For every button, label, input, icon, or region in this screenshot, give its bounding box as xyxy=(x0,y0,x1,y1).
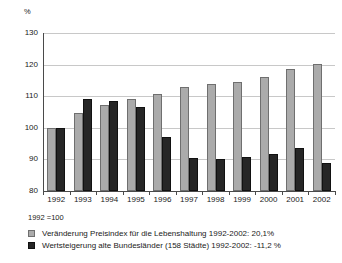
bar-group-1996 xyxy=(149,33,176,191)
bar-1996-series2 xyxy=(162,137,171,191)
x-tick-1995 xyxy=(149,191,150,195)
bar-1999-series1 xyxy=(233,82,242,191)
bar-group-2000 xyxy=(255,33,282,191)
bar-group-1995 xyxy=(123,33,150,191)
y-tick-label-110: 110 xyxy=(14,92,38,100)
bar-group-1994 xyxy=(96,33,123,191)
x-tick-2000 xyxy=(282,191,283,195)
bar-2002-series2 xyxy=(322,163,331,191)
bar-1993-series1 xyxy=(74,113,83,190)
y-tick-label-80: 80 xyxy=(14,187,38,195)
bar-1999-series2 xyxy=(242,157,251,190)
y-axis-unit-label: % xyxy=(24,8,31,16)
bar-1998-series2 xyxy=(216,159,225,191)
bar-chart: % 130 120 110 100 90 80 1992199319941995… xyxy=(0,0,342,263)
bar-group-1997 xyxy=(176,33,203,191)
chart-legend: Veränderung Preisindex für die Lebenshal… xyxy=(28,228,281,252)
y-tick-label-130: 130 xyxy=(14,29,38,37)
x-tick-1996 xyxy=(176,191,177,195)
x-tick-1999 xyxy=(255,191,256,195)
bar-2002-series1 xyxy=(313,64,322,190)
bar-group-2002 xyxy=(308,33,335,191)
legend-label-preisindex: Veränderung Preisindex für die Lebenshal… xyxy=(42,229,274,238)
bar-2000-series2 xyxy=(269,154,278,191)
bar-1994-series1 xyxy=(100,105,109,191)
x-tick-1993 xyxy=(96,191,97,195)
legend-swatch-dark-icon xyxy=(28,242,35,249)
x-axis-label-2002: 2002 xyxy=(305,195,339,204)
bar-1996-series1 xyxy=(153,94,162,190)
bar-group-1992 xyxy=(43,33,70,191)
plot-area xyxy=(43,33,335,191)
bar-1992-series1 xyxy=(47,128,56,191)
x-tick-1994 xyxy=(123,191,124,195)
bar-group-1999 xyxy=(229,33,256,191)
bar-1995-series1 xyxy=(127,99,136,191)
bar-1994-series2 xyxy=(109,101,118,190)
y-tick-label-120: 120 xyxy=(14,61,38,69)
bar-1997-series2 xyxy=(189,158,198,190)
bar-2001-series1 xyxy=(286,69,295,190)
legend-swatch-gray-icon xyxy=(28,230,35,237)
bar-1993-series2 xyxy=(83,99,92,190)
bar-1997-series1 xyxy=(180,87,189,190)
x-tick-1997 xyxy=(202,191,203,195)
bar-2000-series1 xyxy=(260,77,269,191)
y-tick-label-90: 90 xyxy=(14,155,38,163)
bar-1992-series2 xyxy=(56,128,65,191)
bar-group-1993 xyxy=(70,33,97,191)
y-tick-label-100: 100 xyxy=(14,124,38,132)
legend-item-preisindex: Veränderung Preisindex für die Lebenshal… xyxy=(28,228,281,239)
bar-group-2001 xyxy=(282,33,309,191)
x-tick-2001 xyxy=(308,191,309,195)
x-tick-2002 xyxy=(335,191,336,195)
x-tick-origin xyxy=(43,191,44,195)
legend-item-wertsteigerung: Wertsteigerung alte Bundesländer (158 St… xyxy=(28,240,281,251)
bar-group-1998 xyxy=(202,33,229,191)
x-axis-line xyxy=(43,191,335,192)
bar-1998-series1 xyxy=(207,84,216,190)
x-tick-1998 xyxy=(229,191,230,195)
bar-1995-series2 xyxy=(136,107,145,190)
x-tick-1992 xyxy=(70,191,71,195)
bar-2001-series2 xyxy=(295,148,304,190)
legend-label-wertsteigerung: Wertsteigerung alte Bundesländer (158 St… xyxy=(42,241,281,250)
base-note: 1992 =100 xyxy=(28,213,64,222)
